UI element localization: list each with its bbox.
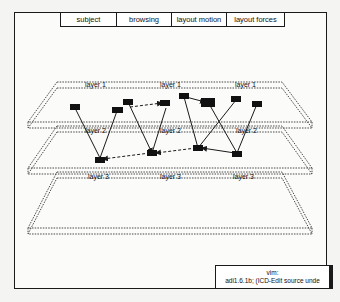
layer-1-label: layer 1 [160, 81, 181, 89]
layer-2-label: layer 2 [160, 127, 181, 135]
layer-3-plane [28, 172, 312, 234]
tab-layout-motion[interactable]: layout motion [172, 13, 227, 26]
tab-browsing[interactable]: browsing [117, 13, 172, 26]
tab-bar: subject browsing layout motion layout fo… [60, 12, 285, 27]
graph-node[interactable] [231, 96, 241, 102]
status-line-2: adi1.6.1b; (ICD-Edit source unde [216, 277, 329, 285]
status-line-1: vim: [216, 269, 329, 277]
graph-node[interactable] [112, 107, 123, 113]
graph-node[interactable] [232, 151, 242, 157]
layered-graph-canvas[interactable]: layer 1 layer 1 layer 1 layer 2 layer 2 … [0, 0, 340, 302]
layer-3-label: layer 3 [233, 173, 254, 181]
layer-1-label: layer 1 [85, 81, 106, 89]
graph-node[interactable] [193, 145, 203, 151]
tab-subject[interactable]: subject [61, 13, 117, 26]
graph-node[interactable] [160, 100, 170, 106]
status-box: vim: adi1.6.1b; (ICD-Edit source unde [215, 265, 333, 289]
layer-3-label: layer 3 [160, 173, 181, 181]
graph-node-cluster[interactable] [201, 98, 215, 107]
graph-node[interactable] [123, 99, 133, 105]
layer-1-label: layer 1 [235, 81, 256, 89]
tab-layout-forces[interactable]: layout forces [227, 13, 284, 26]
graph-node[interactable] [147, 150, 157, 156]
graph-node[interactable] [252, 101, 262, 107]
layer-2-label: layer 2 [236, 127, 257, 135]
layer-3-label: layer 3 [88, 173, 109, 181]
graph-node[interactable] [179, 93, 189, 99]
graph-node[interactable] [70, 104, 80, 110]
graph-node[interactable] [95, 157, 105, 163]
